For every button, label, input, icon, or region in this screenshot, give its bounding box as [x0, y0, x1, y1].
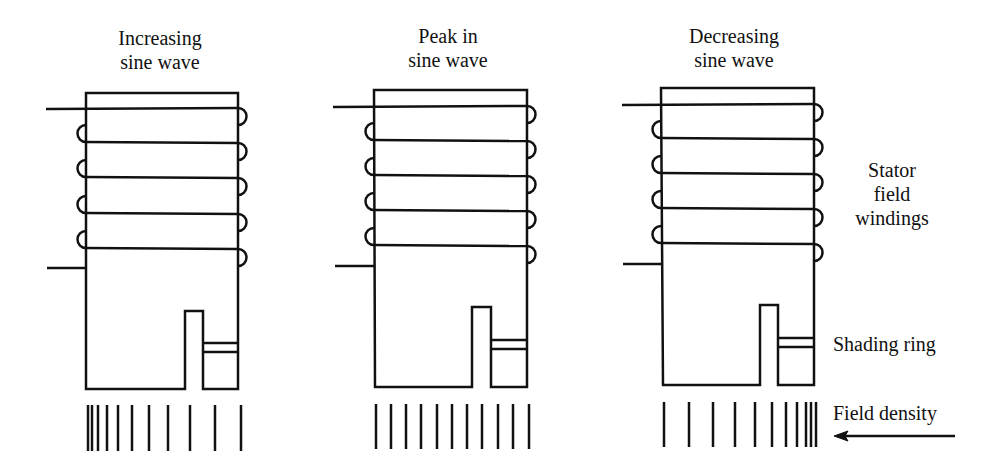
pole-outline	[661, 88, 814, 385]
arrow-left-icon	[834, 431, 955, 441]
pole-decreasing	[622, 88, 823, 447]
diagram-canvas	[0, 0, 989, 476]
pole-outline	[374, 90, 527, 387]
field-density-lines	[376, 404, 529, 449]
stator-winding	[46, 108, 247, 268]
pole-outline	[86, 93, 238, 389]
field-density-lines	[88, 405, 241, 451]
stator-winding	[622, 104, 823, 264]
field-density-lines	[664, 402, 816, 447]
stator-winding	[333, 106, 536, 266]
pole-peak	[333, 90, 536, 449]
pole-increasing	[46, 93, 247, 451]
